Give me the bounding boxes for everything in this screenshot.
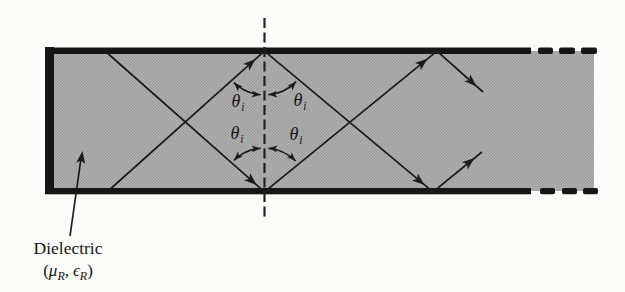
dielectric-label: Dielectric (μR,ϵR) bbox=[18, 239, 118, 286]
theta-subscript: i bbox=[241, 101, 244, 113]
theta-symbol: θ bbox=[293, 90, 302, 110]
epsilon-symbol: ϵ bbox=[73, 261, 80, 280]
angle-label-top-left: θi bbox=[231, 92, 244, 114]
mu-subscript: R bbox=[57, 269, 64, 283]
angle-label-bottom-right: θi bbox=[289, 125, 302, 147]
dielectric-label-name: Dielectric bbox=[34, 238, 103, 258]
slab-left-wall bbox=[45, 47, 54, 194]
theta-symbol: θ bbox=[289, 124, 298, 144]
dielectric-parameters: (μR,ϵR) bbox=[18, 261, 118, 286]
theta-subscript: i bbox=[303, 100, 306, 112]
close-paren: ) bbox=[87, 261, 93, 280]
theta-symbol: θ bbox=[230, 123, 239, 143]
angle-label-top-right: θi bbox=[293, 91, 306, 113]
theta-subscript: i bbox=[240, 133, 243, 145]
slab-top-wall bbox=[45, 48, 597, 55]
dielectric-slab-waveguide-figure: θi θi θi θi Dielectric (μR,ϵR) bbox=[0, 0, 625, 292]
slab-bottom-wall bbox=[45, 188, 598, 194]
theta-symbol: θ bbox=[231, 91, 240, 111]
separator: , bbox=[65, 261, 69, 280]
angle-label-bottom-left: θi bbox=[230, 124, 243, 146]
theta-subscript: i bbox=[299, 134, 302, 146]
